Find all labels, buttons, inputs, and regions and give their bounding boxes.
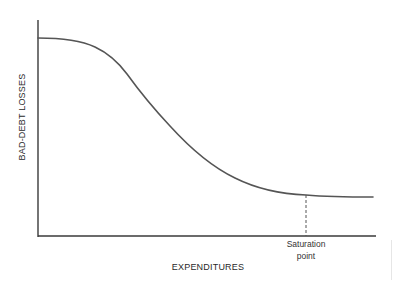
bad-debt-curve xyxy=(38,38,373,197)
y-axis-label: BAD-DEBT LOSSES xyxy=(17,74,27,161)
saturation-label-line2: point xyxy=(276,250,336,262)
x-axis-label: EXPENDITURES xyxy=(150,262,266,272)
saturation-label-line1: Saturation xyxy=(276,238,336,250)
scan-artifact xyxy=(391,240,392,280)
